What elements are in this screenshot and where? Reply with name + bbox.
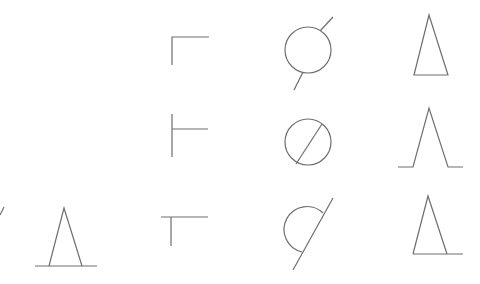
- half-circle-with-line-symbol: [284, 198, 333, 270]
- tee-down-symbol: [161, 217, 208, 246]
- triangle-on-baseline-symbol: [35, 208, 97, 266]
- corner-bracket-symbol: [172, 37, 209, 65]
- circle-with-outer-line-symbol: [285, 17, 333, 90]
- closed-triangle-symbol: [414, 15, 448, 75]
- triangle-with-extended-base-symbol: [413, 196, 463, 254]
- symbol-canvas: [0, 0, 480, 284]
- edge-slash-symbol: [0, 207, 4, 215]
- tee-right-branch-symbol: [172, 114, 208, 157]
- open-triangle-with-feet-symbol: [398, 108, 463, 167]
- circle-with-inner-diagonal-symbol: [285, 119, 331, 165]
